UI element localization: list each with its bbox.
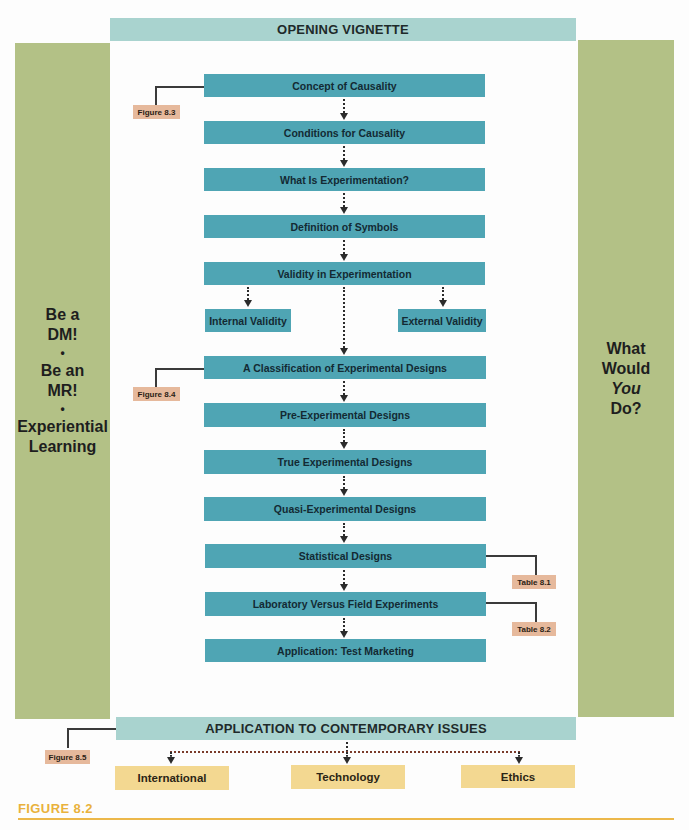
step-label: Concept of Causality [292,80,396,92]
step-conditions-for-causality: Conditions for Causality [204,121,485,144]
reference-figure-8-5[interactable]: Figure 8.5 [45,750,90,764]
dotted-connector [247,287,249,300]
reference-label: Figure 8.4 [138,390,176,399]
reference-connector [155,86,204,88]
be-a-dm-line2: DM! [17,325,108,345]
branch-label: External Validity [401,315,482,327]
contemporary-issues-bar: APPLICATION TO CONTEMPORARY ISSUES [116,717,576,740]
arrow-down-icon [340,395,348,402]
arrow-down-icon [340,254,348,261]
arrow-down-icon [340,631,348,638]
experiential-line1: Experiential [17,417,108,437]
branch-internal-validity: Internal Validity [205,309,291,332]
issue-label: Technology [316,771,380,783]
step-label: True Experimental Designs [278,456,413,468]
step-quasi-experimental-designs: Quasi-Experimental Designs [204,497,486,521]
dotted-connector [343,99,345,113]
dotted-connector [343,146,345,160]
arrow-down-icon [167,757,175,764]
arrow-down-icon [340,442,348,449]
step-classification-of-designs: A Classification of Experimental Designs [204,356,486,379]
dotted-connector [343,287,345,348]
arrow-down-icon [340,489,348,496]
reference-table-8-1[interactable]: Table 8.1 [512,575,556,589]
step-label: Conditions for Causality [284,127,405,139]
dotted-connector [343,618,345,631]
step-definition-of-symbols: Definition of Symbols [204,215,485,238]
reference-label: Table 8.2 [517,625,551,634]
issue-international: International [115,766,229,790]
issue-label: Ethics [501,771,536,783]
reference-figure-8-3[interactable]: Figure 8.3 [133,105,180,119]
step-laboratory-vs-field: Laboratory Versus Field Experiments [205,592,486,616]
arrow-down-icon [340,113,348,120]
dotted-connector [343,429,345,442]
reference-label: Figure 8.5 [49,753,87,762]
step-label: Laboratory Versus Field Experiments [253,598,439,610]
bullet-separator: • [17,401,108,417]
dotted-connector [343,381,345,395]
left-side-panel: Be a DM! • Be an MR! • Experiential Lear… [15,43,110,719]
what-would-you-do-line1: What [602,339,651,359]
arrow-down-icon [343,757,351,764]
reference-figure-8-4[interactable]: Figure 8.4 [133,387,180,401]
step-label: Quasi-Experimental Designs [274,503,416,515]
reference-connector [67,728,69,748]
right-side-panel: What Would You Do? [578,40,674,717]
arrow-down-icon [340,584,348,591]
dotted-connector [343,523,345,536]
step-statistical-designs: Statistical Designs [205,544,486,568]
arrow-down-icon [439,300,447,307]
opening-vignette-label: OPENING VIGNETTE [277,22,409,37]
be-an-mr-line2: MR! [17,381,108,401]
dotted-branch-line [170,751,520,753]
arrow-down-icon [340,536,348,543]
step-label: Definition of Symbols [291,221,399,233]
issue-technology: Technology [291,765,405,789]
reference-connector [155,368,204,370]
step-validity-in-experimentation: Validity in Experimentation [204,262,485,285]
issue-ethics: Ethics [461,765,575,788]
arrow-down-icon [515,757,523,764]
dotted-connector [442,287,444,300]
step-concept-of-causality: Concept of Causality [204,74,485,97]
step-application-test-marketing: Application: Test Marketing [205,639,486,662]
arrow-down-icon [340,160,348,167]
reference-table-8-2[interactable]: Table 8.2 [512,622,556,636]
dotted-connector [343,193,345,207]
reference-connector [67,728,116,730]
opening-vignette-bar: OPENING VIGNETTE [110,18,576,41]
reference-connector [486,602,536,604]
step-pre-experimental-designs: Pre-Experimental Designs [204,403,486,427]
be-a-dm-line1: Be a [17,305,108,325]
reference-connector [486,555,536,557]
contemporary-issues-label: APPLICATION TO CONTEMPORARY ISSUES [205,721,487,736]
figure-caption: FIGURE 8.2 [18,801,93,816]
step-label: Pre-Experimental Designs [280,409,410,421]
be-an-mr-line1: Be an [17,361,108,381]
arrow-down-icon [244,300,252,307]
reference-label: Table 8.1 [517,578,551,587]
reference-connector [535,602,537,622]
experiential-line2: Learning [17,437,108,457]
step-label: Validity in Experimentation [277,268,411,280]
what-would-you-do-line4: Do? [602,399,651,419]
arrow-down-icon [340,207,348,214]
issue-label: International [137,772,206,784]
branch-label: Internal Validity [209,315,287,327]
reference-connector [155,86,157,106]
what-would-you-do-line2: Would [602,359,651,379]
step-label: Application: Test Marketing [277,645,414,657]
step-label: What Is Experimentation? [280,174,409,186]
bullet-separator: • [17,345,108,361]
arrow-down-icon [340,348,348,355]
step-label: A Classification of Experimental Designs [243,362,447,374]
dotted-connector [343,476,345,489]
reference-connector [155,368,157,388]
step-label: Statistical Designs [299,550,392,562]
what-would-you-do-line3: You [602,379,651,399]
step-what-is-experimentation: What Is Experimentation? [204,168,485,191]
dotted-connector [343,240,345,254]
caption-rule [18,818,674,820]
reference-connector [535,555,537,575]
